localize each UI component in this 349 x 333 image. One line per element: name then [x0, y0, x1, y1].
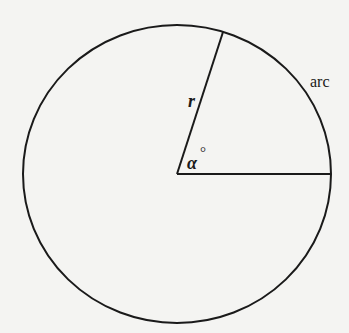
radius-label: r — [188, 92, 195, 110]
diagram-svg — [0, 0, 349, 333]
circle-diagram: r α ° arc — [0, 0, 349, 333]
arc-label: arc — [310, 74, 330, 90]
degree-symbol: ° — [200, 145, 206, 160]
angle-label: α — [187, 154, 197, 172]
